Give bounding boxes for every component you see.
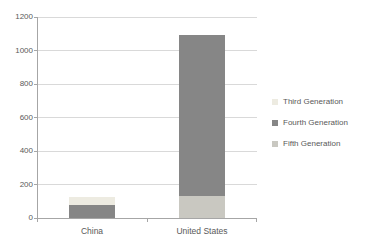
stacked-bar-chart: 020040060080010001200 ChinaUnited States… bbox=[0, 0, 366, 246]
y-tick-label-600: 600 bbox=[0, 113, 33, 123]
legend-item-third-generation: Third Generation bbox=[272, 91, 348, 112]
category-label-united-states: United States bbox=[147, 226, 257, 236]
bar-segment-fifth-generation-united-states bbox=[179, 196, 225, 218]
y-tick-label-1200: 1200 bbox=[0, 12, 33, 22]
legend-label-fifth-generation: Fifth Generation bbox=[283, 139, 340, 149]
legend: Third GenerationFourth GenerationFifth G… bbox=[272, 91, 348, 154]
legend-item-fourth-generation: Fourth Generation bbox=[272, 112, 348, 133]
y-axis-line bbox=[37, 17, 38, 218]
legend-label-third-generation: Third Generation bbox=[283, 97, 343, 107]
category-label-china: China bbox=[37, 226, 147, 236]
legend-item-fifth-generation: Fifth Generation bbox=[272, 133, 348, 154]
y-tick-label-400: 400 bbox=[0, 146, 33, 156]
y-tick-label-1000: 1000 bbox=[0, 46, 33, 56]
bar-segment-third-generation-china bbox=[69, 197, 115, 205]
gridline-1200 bbox=[37, 17, 257, 18]
y-tick-label-800: 800 bbox=[0, 79, 33, 89]
legend-marker-fourth-generation bbox=[272, 120, 278, 126]
legend-marker-fifth-generation bbox=[272, 141, 278, 147]
legend-label-fourth-generation: Fourth Generation bbox=[283, 118, 348, 128]
legend-marker-third-generation bbox=[272, 99, 278, 105]
y-tick-label-200: 200 bbox=[0, 180, 33, 190]
bar-segment-fourth-generation-china bbox=[69, 205, 115, 218]
bar-segment-fourth-generation-united-states bbox=[179, 35, 225, 197]
x-tick-china bbox=[147, 219, 148, 222]
x-tick-united-states bbox=[256, 219, 257, 222]
y-tick-label-0: 0 bbox=[0, 213, 33, 223]
x-tick-start bbox=[37, 219, 38, 222]
